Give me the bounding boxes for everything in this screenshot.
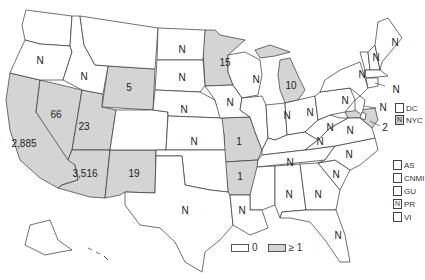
svg-text:N: N <box>178 44 185 55</box>
legend-swatch-positive <box>268 244 286 252</box>
svg-text:N: N <box>326 122 333 133</box>
svg-text:N: N <box>178 72 185 83</box>
svg-text:N: N <box>334 230 341 241</box>
territory-as: AS <box>393 160 415 170</box>
territory-gu: GU <box>393 186 416 196</box>
svg-text:15: 15 <box>219 57 231 68</box>
us-map: N 2,885 66 23 3,516 19 N 5 N N N N N 15 … <box>0 0 425 280</box>
territory-box <box>393 186 402 196</box>
svg-text:N: N <box>190 136 197 147</box>
territory-nyc: N NYC <box>395 115 423 125</box>
svg-text:N: N <box>180 104 187 115</box>
svg-text:N: N <box>283 110 290 121</box>
state-hi[interactable] <box>88 248 108 260</box>
svg-text:N: N <box>372 52 379 63</box>
svg-text:N: N <box>36 55 43 66</box>
territory-cnmi: CNMI <box>393 173 424 183</box>
svg-text:N: N <box>238 205 245 216</box>
state-ak[interactable] <box>25 220 72 255</box>
territory-box <box>395 103 404 113</box>
svg-text:N: N <box>80 71 87 82</box>
state-in[interactable] <box>266 103 287 140</box>
state-mi[interactable] <box>255 45 305 103</box>
svg-text:N: N <box>358 69 365 80</box>
map-legend: 0 ≥ 1 <box>231 242 312 253</box>
legend-swatch-zero <box>231 244 249 252</box>
svg-text:N: N <box>252 74 259 85</box>
territory-box: N <box>393 199 402 209</box>
svg-text:N: N <box>379 102 386 113</box>
territory-box <box>393 173 402 183</box>
state-wa[interactable] <box>22 10 72 46</box>
svg-text:N: N <box>341 95 348 106</box>
svg-text:1: 1 <box>237 171 243 182</box>
svg-text:N: N <box>286 157 293 168</box>
svg-text:3,516: 3,516 <box>72 168 97 179</box>
svg-text:1: 1 <box>236 136 242 147</box>
svg-text:N: N <box>346 125 353 136</box>
territory-dc: DC <box>395 103 418 113</box>
svg-text:N: N <box>316 136 323 147</box>
svg-text:N: N <box>285 189 292 200</box>
svg-text:N: N <box>392 84 399 95</box>
territory-pr: N PR <box>393 199 415 209</box>
territory-box <box>393 212 402 222</box>
svg-text:N: N <box>314 189 321 200</box>
svg-text:10: 10 <box>285 80 297 91</box>
svg-text:N: N <box>226 97 233 108</box>
territory-box: N <box>395 115 404 125</box>
territory-vi: VI <box>393 212 412 222</box>
svg-text:2,885: 2,885 <box>11 138 36 149</box>
territory-box <box>393 160 402 170</box>
svg-text:2: 2 <box>382 122 388 133</box>
svg-text:5: 5 <box>126 82 132 93</box>
svg-text:N: N <box>391 37 398 48</box>
legend-zero: 0 <box>231 242 258 253</box>
svg-text:19: 19 <box>128 168 140 179</box>
svg-text:N: N <box>306 107 313 118</box>
legend-positive: ≥ 1 <box>268 242 303 253</box>
svg-text:N: N <box>345 149 352 160</box>
svg-text:N: N <box>181 205 188 216</box>
state-ma[interactable] <box>365 70 388 78</box>
state-ct[interactable] <box>366 78 378 88</box>
state-co[interactable] <box>110 110 168 150</box>
svg-text:N: N <box>332 169 339 180</box>
svg-text:66: 66 <box>50 109 62 120</box>
svg-text:23: 23 <box>78 121 90 132</box>
